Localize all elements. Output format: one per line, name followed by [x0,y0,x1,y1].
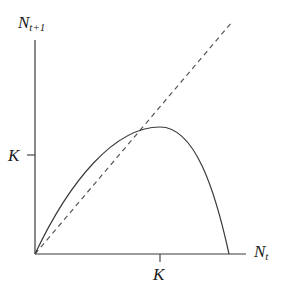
x-axis-label-sub: t [265,250,268,262]
x-axis-label: Nt [254,243,268,262]
recruitment-curve [35,127,229,254]
y-tick-label-k: K [8,147,19,164]
plot-area [0,0,284,292]
y-axis-label-main: N [18,13,29,32]
x-tick-label-k: K [153,266,164,283]
replacement-line [35,22,232,254]
x-axis-label-main: N [254,242,265,261]
y-axis-label-sub: t+1 [29,21,45,33]
y-axis-label: Nt+1 [18,14,45,33]
